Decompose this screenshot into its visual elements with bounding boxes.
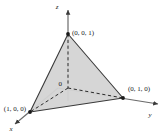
vertex-marker-z bbox=[66, 32, 70, 36]
plane-diagram-svg: z y x (0, 0, 1) (0, 1, 0) (1, 0, 0) 0 bbox=[0, 0, 167, 133]
vertex-marker-y bbox=[121, 96, 125, 100]
point-label-z: (0, 0, 1) bbox=[72, 29, 95, 37]
point-label-x: (1, 0, 0) bbox=[4, 105, 27, 113]
origin-label: 0 bbox=[59, 80, 63, 88]
plane-triangle-group bbox=[30, 34, 123, 112]
point-label-y: (0, 1, 0) bbox=[128, 85, 151, 93]
plane-triangle-fill bbox=[30, 34, 123, 112]
z-axis-label: z bbox=[55, 3, 59, 11]
y-axis-label: y bbox=[147, 111, 152, 119]
x-axis-label: x bbox=[8, 125, 13, 133]
figure-canvas: z y x (0, 0, 1) (0, 1, 0) (1, 0, 0) 0 bbox=[0, 0, 167, 133]
vertex-marker-x bbox=[28, 110, 32, 114]
